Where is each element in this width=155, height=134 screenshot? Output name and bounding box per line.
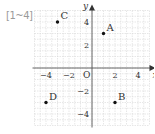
x-axis-label: x — [153, 70, 155, 80]
point-label-a: A — [106, 22, 115, 33]
y-tick-label: 2 — [84, 41, 89, 50]
axes — [33, 5, 155, 128]
y-axis-label: y — [82, 1, 89, 11]
point-label-d: D — [49, 91, 57, 102]
tick-labels: xyO−4−22442−2−4 — [40, 1, 154, 120]
origin-label: O — [83, 70, 90, 80]
point-d — [44, 101, 47, 104]
y-tick-label: 4 — [84, 18, 89, 27]
x-tick-label: −2 — [63, 71, 75, 80]
coordinate-plane: xyO−4−22442−2−4 ABCD — [0, 0, 154, 134]
y-axis-arrow — [89, 5, 95, 11]
x-tick-label: −4 — [40, 71, 52, 80]
y-tick-label: −2 — [77, 87, 89, 96]
point-c — [56, 20, 59, 23]
point-label-b: B — [118, 91, 125, 102]
y-tick-label: −4 — [77, 110, 89, 119]
point-label-c: C — [61, 10, 69, 21]
point-a — [102, 32, 105, 35]
point-b — [113, 101, 116, 104]
x-tick-label: 4 — [135, 71, 140, 80]
x-tick-label: 2 — [112, 71, 117, 80]
